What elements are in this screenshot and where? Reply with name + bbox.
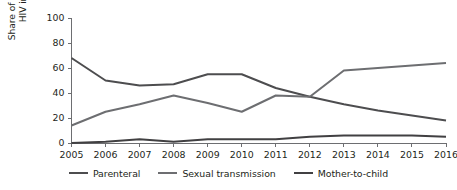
legend-label: Parenteral [93, 168, 140, 179]
legend-swatch-icon [69, 172, 88, 175]
y-tick-label: 100 [47, 12, 65, 23]
y-tick-label: 0 [59, 137, 65, 148]
legend-item-parenteral[interactable]: Parenteral [69, 168, 140, 179]
x-tick-label: 2012 [298, 149, 322, 160]
x-tick-label: 2015 [400, 149, 424, 160]
series-line-mother-to-child [72, 136, 447, 144]
plot-area: 0204060801002005200620072008200920102011… [0, 0, 457, 163]
chart-legend: ParenteralSexual transmissionMother-to-c… [0, 163, 457, 183]
legend-swatch-icon [158, 172, 177, 175]
y-tick-label: 40 [53, 87, 65, 98]
x-tick-label: 2014 [366, 149, 390, 160]
x-tick-label: 2011 [264, 149, 288, 160]
y-tick-label: 20 [53, 112, 65, 123]
hiv-transmission-line-chart: Share of newly diagnosed HIV infections … [0, 0, 457, 190]
series-line-sexual-transmission [72, 63, 447, 126]
x-tick-label: 2009 [196, 149, 220, 160]
x-tick-label: 2008 [162, 149, 186, 160]
x-tick-label: 2013 [332, 149, 356, 160]
x-tick-label: 2010 [230, 149, 254, 160]
x-tick-label: 2006 [94, 149, 118, 160]
y-tick-label: 60 [53, 62, 65, 73]
legend-item-sexual-transmission[interactable]: Sexual transmission [158, 168, 275, 179]
legend-item-mother-to-child[interactable]: Mother-to-child [294, 168, 388, 179]
x-tick-label: 2007 [128, 149, 152, 160]
legend-swatch-icon [294, 172, 313, 175]
legend-label: Sexual transmission [182, 168, 275, 179]
y-tick-label: 80 [53, 37, 65, 48]
legend-label: Mother-to-child [318, 168, 388, 179]
x-tick-label: 2016 [434, 149, 457, 160]
x-tick-label: 2005 [60, 149, 84, 160]
